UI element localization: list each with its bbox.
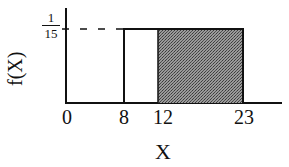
x-tick-12: 12 xyxy=(153,106,173,129)
fraction-denominator: 15 xyxy=(41,27,61,40)
x-tick-8: 8 xyxy=(119,106,129,129)
fraction-numerator: 1 xyxy=(41,11,61,24)
x-tick-23: 23 xyxy=(234,106,254,129)
y-tick-one-fifteenth: 1 15 xyxy=(41,11,61,40)
x-axis-label: X xyxy=(155,139,171,165)
shaded-probability-region xyxy=(158,29,243,103)
y-axis-label: f(X) xyxy=(4,52,27,86)
x-tick-0: 0 xyxy=(62,106,72,129)
